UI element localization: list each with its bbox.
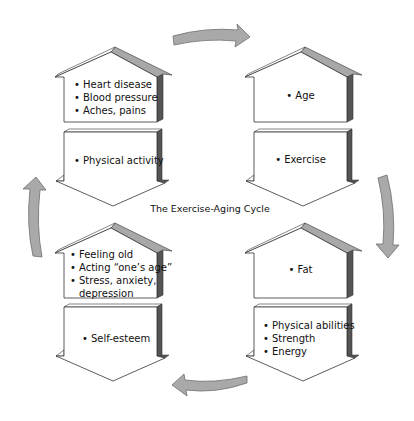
arrow-box-label-bottom-right: Physical abilities Strength Energy: [263, 319, 355, 358]
list-item: Heart disease: [74, 78, 158, 91]
list-item-continuation: depression: [70, 287, 172, 300]
arrow-box-label-top-left: Physical activity: [74, 154, 164, 167]
list-item: Blood pressure: [74, 91, 158, 104]
house-label-top-left: Heart disease Blood pressure Aches, pain…: [74, 78, 158, 117]
house-label-top-right: Age: [254, 89, 347, 102]
curved-arrow-up-icon: [23, 177, 46, 257]
list-item: Age: [286, 89, 314, 102]
exercise-aging-cycle-diagram: The Exercise-Aging Cycle Heart disease B…: [0, 0, 414, 421]
diagram-title: The Exercise-Aging Cycle: [140, 203, 280, 214]
house-shape-bottom-right: [245, 223, 362, 298]
list-item: Strength: [263, 332, 355, 345]
curved-arrow-down-icon: [376, 175, 399, 258]
list-item: Aches, pains: [74, 104, 158, 117]
list-item: Physical activity: [74, 154, 164, 167]
house-label-bottom-right: Fat: [254, 263, 347, 276]
arrow-box-label-top-right: Exercise: [254, 153, 347, 166]
house-label-bottom-left: Feeling old Acting “one’s age” Stress, a…: [70, 248, 172, 300]
arrow-box-shape-top-left: [56, 129, 169, 206]
list-item: Physical abilities: [263, 319, 355, 332]
list-item: Exercise: [275, 153, 326, 166]
list-item: Self-esteem: [82, 332, 150, 345]
list-item: Energy: [263, 345, 355, 358]
arrow-box-shape-top-right: [246, 129, 359, 206]
curved-arrow-right-icon: [173, 24, 250, 47]
list-item: Stress, anxiety,: [70, 274, 172, 287]
list-item: Feeling old: [70, 248, 172, 261]
list-item: Fat: [289, 263, 313, 276]
arrow-box-label-bottom-left: Self-esteem: [82, 332, 150, 345]
house-shape-top-right: [245, 47, 362, 122]
curved-arrow-left-icon: [172, 374, 247, 396]
list-item: Acting “one’s age”: [70, 261, 172, 274]
